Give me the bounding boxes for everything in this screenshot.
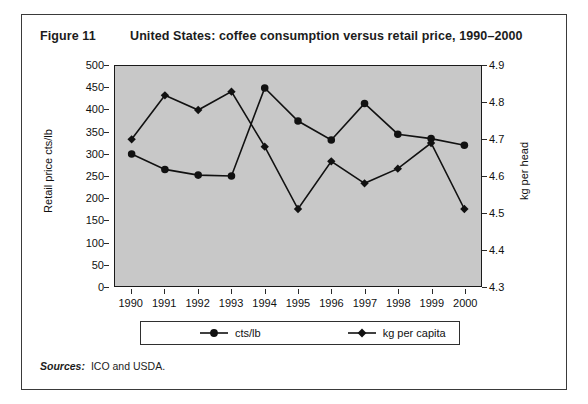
series-marker bbox=[261, 143, 269, 151]
series-line bbox=[132, 92, 465, 209]
y-axis-right-ticks: 4.94.84.74.64.54.44.3 bbox=[482, 55, 516, 308]
y-axis-right-title: kg per head bbox=[518, 101, 530, 241]
sources-row: Sources: ICO and USDA. bbox=[40, 360, 165, 372]
series-cts-per-lb bbox=[128, 84, 468, 180]
figure-number: Figure 11 bbox=[40, 29, 130, 43]
series-marker bbox=[128, 150, 136, 158]
axis-tick-label: 4.5 bbox=[489, 208, 504, 219]
axis-tick-mark bbox=[482, 287, 487, 288]
axis-tick-label: 4.9 bbox=[489, 60, 504, 71]
series-kg-per-capita bbox=[127, 88, 468, 214]
axis-tick-label: 50 bbox=[92, 260, 104, 271]
axis-tick-mark bbox=[265, 289, 266, 294]
chart-region: Retail price cts/lb kg per head 50045040… bbox=[22, 55, 568, 350]
plot-series-svg bbox=[115, 66, 481, 286]
chart-legend: cts/lbkg per capita bbox=[140, 321, 460, 345]
y-axis-left-ticks: 500450400350300250200150100500 bbox=[75, 55, 109, 308]
axis-tick-mark bbox=[104, 154, 109, 155]
series-marker bbox=[161, 166, 169, 174]
axis-tick-mark bbox=[164, 289, 165, 294]
axis-tick-mark bbox=[331, 289, 332, 294]
series-marker bbox=[460, 205, 468, 213]
series-marker bbox=[261, 84, 269, 92]
plot-area bbox=[114, 65, 482, 287]
axis-tick-mark bbox=[482, 139, 487, 140]
axis-tick-mark bbox=[465, 289, 466, 294]
axis-tick-label: 4.6 bbox=[489, 171, 504, 182]
axis-tick-mark bbox=[104, 265, 109, 266]
axis-tick-mark bbox=[131, 289, 132, 294]
legend-label: kg per capita bbox=[383, 327, 446, 339]
axis-tick-label: 350 bbox=[86, 127, 104, 138]
x-axis-ticks: 1990199119921993199419951996199719981999… bbox=[114, 289, 482, 319]
axis-tick-mark bbox=[231, 289, 232, 294]
axis-tick-label: 400 bbox=[86, 104, 104, 115]
axis-tick-mark bbox=[482, 65, 487, 66]
axis-tick-mark bbox=[482, 250, 487, 251]
series-marker bbox=[227, 88, 235, 96]
series-marker bbox=[327, 136, 335, 144]
axis-tick-mark bbox=[104, 220, 109, 221]
axis-tick-mark bbox=[298, 289, 299, 294]
axis-tick-mark bbox=[104, 176, 109, 177]
axis-tick-label: 4.7 bbox=[489, 134, 504, 145]
legend-entry-cts-per-lb[interactable]: cts/lb bbox=[199, 327, 261, 339]
figure-header: Figure 11 United States: coffee consumpt… bbox=[22, 15, 566, 43]
circle-marker-icon bbox=[199, 327, 229, 339]
figure-card: Figure 11 United States: coffee consumpt… bbox=[21, 14, 567, 390]
sources-label: Sources: bbox=[40, 360, 85, 372]
axis-tick-mark bbox=[104, 287, 109, 288]
series-marker bbox=[360, 179, 368, 187]
axis-tick-label: 500 bbox=[86, 60, 104, 71]
axis-tick-mark bbox=[104, 87, 109, 88]
figure-title: United States: coffee consumption versus… bbox=[130, 29, 523, 43]
legend-label: cts/lb bbox=[235, 327, 261, 339]
axis-tick-label: 200 bbox=[86, 193, 104, 204]
axis-tick-mark bbox=[482, 102, 487, 103]
axis-tick-mark bbox=[104, 65, 109, 66]
axis-tick-mark bbox=[198, 289, 199, 294]
axis-tick-label: 150 bbox=[86, 215, 104, 226]
series-marker bbox=[194, 106, 202, 114]
series-marker bbox=[361, 100, 369, 108]
axis-tick-mark bbox=[482, 176, 487, 177]
axis-tick-label: 100 bbox=[86, 238, 104, 249]
axis-tick-mark bbox=[365, 289, 366, 294]
axis-tick-label: 4.3 bbox=[489, 282, 504, 293]
axis-tick-mark bbox=[104, 132, 109, 133]
y-axis-left-title: Retail price cts/lb bbox=[42, 101, 54, 241]
legend-entry-kg-per-capita[interactable]: kg per capita bbox=[347, 327, 446, 339]
axis-tick-label: 300 bbox=[86, 149, 104, 160]
axis-tick-mark bbox=[398, 289, 399, 294]
axis-tick-label: 250 bbox=[86, 171, 104, 182]
axis-tick-label: 450 bbox=[86, 82, 104, 93]
axis-tick-mark bbox=[482, 213, 487, 214]
series-marker bbox=[461, 141, 469, 149]
axis-tick-label: 2000 bbox=[445, 297, 485, 309]
axis-tick-label: 4.4 bbox=[489, 245, 504, 256]
series-marker bbox=[294, 117, 302, 125]
series-marker bbox=[228, 172, 236, 180]
series-marker bbox=[194, 171, 202, 179]
axis-tick-mark bbox=[104, 243, 109, 244]
axis-tick-mark bbox=[104, 109, 109, 110]
series-marker bbox=[394, 130, 402, 138]
sources-text: ICO and USDA. bbox=[91, 360, 165, 372]
axis-tick-mark bbox=[104, 198, 109, 199]
series-line bbox=[132, 88, 465, 176]
axis-tick-mark bbox=[432, 289, 433, 294]
axis-tick-label: 4.8 bbox=[489, 97, 504, 108]
diamond-marker-icon bbox=[347, 327, 377, 339]
axis-tick-label: 0 bbox=[98, 282, 104, 293]
